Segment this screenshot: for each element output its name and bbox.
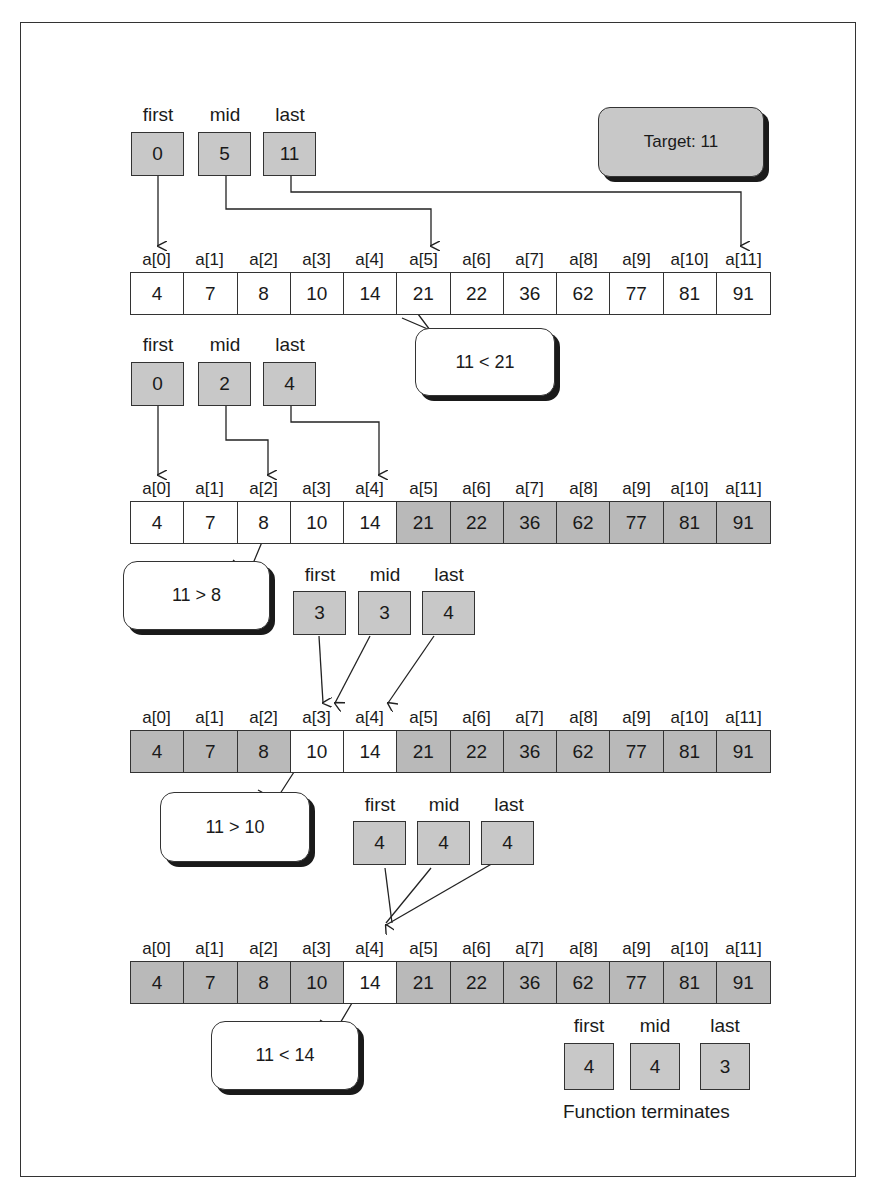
array-cell: 91	[717, 273, 770, 314]
mid-box: 5	[198, 132, 251, 176]
array-cell: 21	[397, 273, 450, 314]
array-cell: 7	[184, 731, 237, 772]
array-cell: 81	[664, 731, 717, 772]
index-label: a[1]	[183, 939, 236, 959]
array-cell: 8	[238, 962, 291, 1003]
array-row: 4 7 8 10 14 21 22 36 62 77 81 91	[130, 730, 771, 773]
last-label: last	[695, 1015, 755, 1037]
index-label: a[5]	[397, 479, 450, 499]
index-label: a[0]	[130, 479, 183, 499]
array-cell: 4	[131, 273, 184, 314]
index-label: a[2]	[237, 939, 290, 959]
index-label: a[2]	[237, 708, 290, 728]
index-label: a[7]	[503, 708, 556, 728]
last-box: 11	[263, 132, 316, 176]
array-cell: 22	[451, 962, 504, 1003]
first-label: first	[128, 334, 188, 356]
mid-label: mid	[414, 794, 474, 816]
mid-box: 3	[358, 591, 411, 635]
array-cell: 4	[131, 962, 184, 1003]
array-cell: 77	[610, 502, 663, 543]
index-label: a[11]	[717, 939, 770, 959]
array-cell: 22	[451, 731, 504, 772]
comparison-bubble: 11 > 10	[160, 792, 310, 862]
index-label: a[9]	[610, 708, 663, 728]
comparison-bubble: 11 < 14	[211, 1021, 359, 1090]
last-label: last	[260, 334, 320, 356]
array-cell: 10	[291, 502, 344, 543]
termination-label: Function terminates	[563, 1101, 730, 1123]
array-cell: 4	[131, 731, 184, 772]
index-label: a[1]	[183, 708, 236, 728]
array-cell: 10	[291, 731, 344, 772]
index-label: a[10]	[663, 250, 716, 270]
array-cell: 10	[291, 273, 344, 314]
index-label: a[10]	[663, 939, 716, 959]
first-label: first	[350, 794, 410, 816]
index-label: a[2]	[237, 250, 290, 270]
last-label: last	[260, 104, 320, 126]
array-cell: 77	[610, 731, 663, 772]
array-cell: 81	[664, 273, 717, 314]
mid-box: 2	[198, 362, 251, 406]
index-label: a[0]	[130, 250, 183, 270]
index-label: a[3]	[290, 939, 343, 959]
index-label: a[6]	[450, 479, 503, 499]
array-cell: 62	[557, 502, 610, 543]
array-cell: 7	[184, 502, 237, 543]
index-label: a[4]	[343, 250, 396, 270]
last-box: 4	[263, 362, 316, 406]
first-label: first	[128, 104, 188, 126]
index-label: a[11]	[717, 479, 770, 499]
index-label: a[4]	[343, 939, 396, 959]
last-box: 4	[422, 591, 475, 635]
comparison-bubble: 11 > 8	[123, 561, 270, 630]
array-cell: 62	[557, 962, 610, 1003]
index-label: a[6]	[450, 250, 503, 270]
array-cell: 4	[131, 502, 184, 543]
index-label: a[5]	[397, 939, 450, 959]
index-label: a[3]	[290, 250, 343, 270]
last-box: 4	[481, 821, 534, 865]
index-label: a[9]	[610, 250, 663, 270]
index-label: a[10]	[663, 708, 716, 728]
index-label: a[7]	[503, 250, 556, 270]
array-cell: 36	[504, 962, 557, 1003]
first-box: 4	[353, 821, 406, 865]
array-cell: 91	[717, 962, 770, 1003]
first-label: first	[290, 564, 350, 586]
array-cell: 36	[504, 731, 557, 772]
index-label: a[11]	[717, 708, 770, 728]
index-label: a[1]	[183, 479, 236, 499]
mid-box: 4	[417, 821, 470, 865]
array-cell: 8	[238, 731, 291, 772]
mid-box: 4	[630, 1043, 680, 1090]
array-cell: 91	[717, 502, 770, 543]
mid-label: mid	[625, 1015, 685, 1037]
array-cell: 62	[557, 273, 610, 314]
array-row: 4 7 8 10 14 21 22 36 62 77 81 91	[130, 272, 771, 315]
array-cell: 7	[184, 273, 237, 314]
array-cell: 14	[344, 962, 397, 1003]
index-label: a[6]	[450, 708, 503, 728]
first-label: first	[559, 1015, 619, 1037]
array-cell: 77	[610, 962, 663, 1003]
array-cell: 10	[291, 962, 344, 1003]
comparison-bubble: 11 < 21	[415, 328, 555, 396]
array-cell: 21	[397, 962, 450, 1003]
index-label: a[0]	[130, 939, 183, 959]
array-cell: 22	[451, 502, 504, 543]
index-label: a[8]	[557, 479, 610, 499]
index-label: a[7]	[503, 479, 556, 499]
index-label: a[3]	[290, 479, 343, 499]
array-cell: 21	[397, 731, 450, 772]
mid-label: mid	[195, 334, 255, 356]
index-label: a[8]	[557, 250, 610, 270]
index-label: a[9]	[610, 939, 663, 959]
array-row: 4 7 8 10 14 21 22 36 62 77 81 91	[130, 501, 771, 544]
first-box: 4	[564, 1043, 614, 1090]
index-label: a[5]	[397, 250, 450, 270]
index-label: a[5]	[397, 708, 450, 728]
index-label: a[8]	[557, 708, 610, 728]
first-box: 0	[131, 362, 184, 406]
